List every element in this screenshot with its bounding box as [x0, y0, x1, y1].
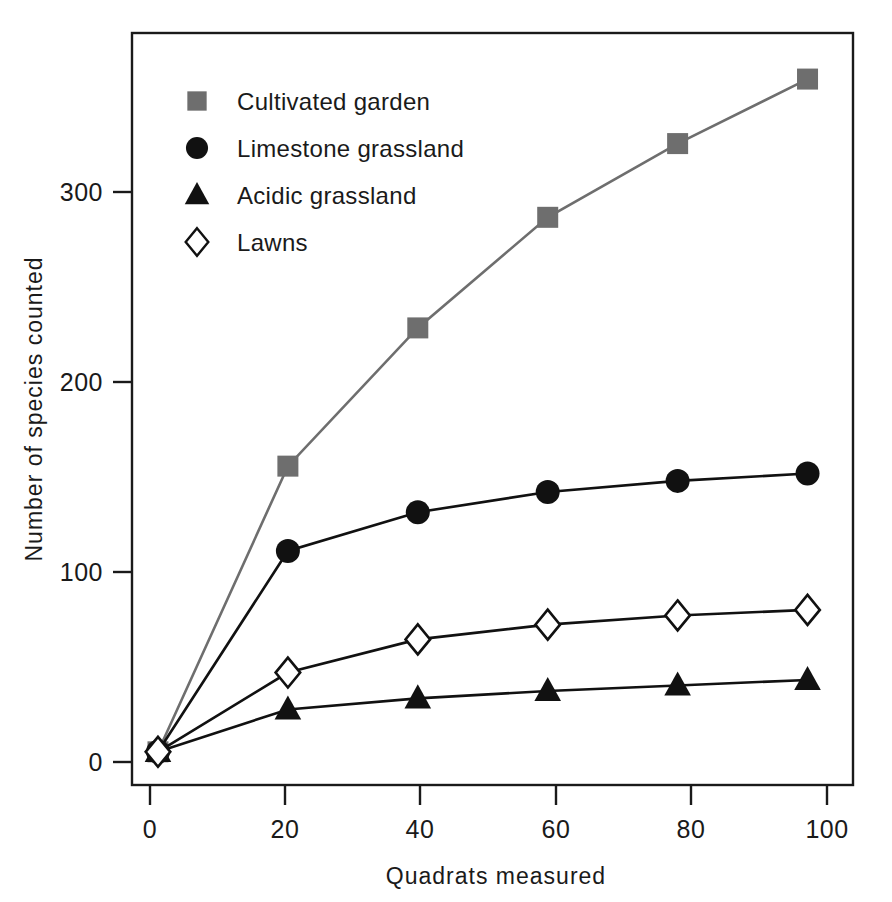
legend-item-acidic-grassland: Acidic grassland	[185, 182, 417, 209]
legend-label: Acidic grassland	[237, 182, 417, 209]
series-acidic-grassland	[145, 666, 821, 762]
x-tick-label-40: 40	[406, 815, 435, 843]
data-point	[796, 462, 820, 486]
data-point	[405, 684, 432, 708]
data-point	[666, 469, 690, 493]
legend-item-lawns: Lawns	[186, 228, 308, 256]
series-line	[158, 79, 808, 752]
y-tick-label-100: 100	[60, 558, 103, 586]
data-point	[276, 658, 301, 688]
data-point	[537, 207, 558, 228]
legend-item-limestone-grassland: Limestone grassland	[186, 135, 464, 162]
x-axis-title: Quadrats measured	[386, 863, 606, 889]
data-point	[407, 317, 428, 338]
y-axis-tick-labels: 0 100 200 300	[60, 178, 103, 776]
data-point	[406, 624, 431, 654]
y-tick-label-200: 200	[60, 368, 103, 396]
series-line	[158, 610, 808, 752]
legend-marker-triangle-filled-icon	[185, 182, 209, 204]
legend-label: Cultivated garden	[237, 88, 430, 115]
data-point	[276, 539, 300, 563]
y-axis-title: Number of species counted	[21, 257, 47, 562]
series-line	[158, 474, 808, 752]
data-point	[664, 671, 691, 695]
data-point	[795, 595, 820, 625]
data-point	[534, 677, 561, 701]
x-tick-label-80: 80	[677, 815, 706, 843]
series-lawns	[146, 595, 820, 767]
legend-label: Lawns	[237, 229, 308, 256]
data-point	[665, 600, 690, 630]
data-point	[536, 480, 560, 504]
data-point	[277, 456, 298, 477]
legend-label: Limestone grassland	[237, 135, 464, 162]
data-point	[667, 133, 688, 154]
legend-item-cultivated-garden: Cultivated garden	[187, 88, 430, 115]
x-tick-label-20: 20	[271, 815, 300, 843]
legend-marker-square-filled-icon	[187, 91, 206, 110]
x-tick-label-0: 0	[143, 815, 157, 843]
y-axis-ticks	[113, 192, 132, 762]
chart-figure: 0 100 200 300 0 20 40 60 80 100 Quadrats…	[0, 0, 892, 902]
species-accumulation-chart: 0 100 200 300 0 20 40 60 80 100 Quadrats…	[0, 0, 892, 902]
y-tick-label-300: 300	[60, 178, 103, 206]
data-point	[535, 610, 560, 640]
series-line	[158, 680, 808, 752]
series-layer	[145, 69, 821, 767]
data-point	[406, 500, 430, 524]
x-axis-tick-labels: 0 20 40 60 80 100	[143, 815, 849, 843]
x-tick-label-100: 100	[805, 815, 848, 843]
chart-legend: Cultivated gardenLimestone grasslandAcid…	[185, 88, 464, 256]
series-cultivated-garden	[147, 69, 818, 763]
legend-marker-diamond-open-icon	[186, 228, 209, 256]
data-point	[797, 69, 818, 90]
data-point	[794, 666, 821, 690]
x-tick-label-60: 60	[542, 815, 571, 843]
legend-marker-circle-filled-icon	[186, 137, 208, 159]
x-axis-ticks	[150, 785, 827, 805]
y-tick-label-0: 0	[89, 748, 103, 776]
